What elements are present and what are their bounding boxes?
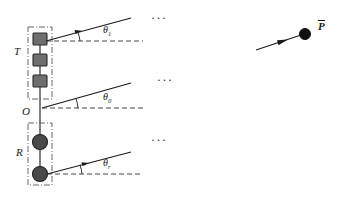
origin-label: O xyxy=(22,106,30,117)
figure-canvas: T R O θ1 θ0 θr P ··· ··· ··· xyxy=(0,0,340,203)
figure-vector-layer xyxy=(0,0,340,203)
tx-element-3 xyxy=(33,75,47,87)
tx-element-1 xyxy=(33,33,47,45)
angle-subscript-theta-1: 1 xyxy=(108,30,111,37)
angle-label-theta-1: θ1 xyxy=(103,25,111,38)
angle-subscript-theta-0: 0 xyxy=(108,97,111,104)
ray-line-upper xyxy=(46,18,131,41)
angle-arc-upper xyxy=(78,33,80,42)
angle-arc-lower xyxy=(80,165,82,174)
transmit-array-label: T xyxy=(14,46,20,57)
receive-array-label: R xyxy=(16,147,23,158)
ellipsis-lower: ··· xyxy=(151,134,168,146)
angle-arc-middle xyxy=(76,99,78,109)
target-point-marker xyxy=(300,29,311,40)
ellipsis-upper: ··· xyxy=(151,12,168,24)
ray-line-middle xyxy=(42,83,131,108)
rx-element-1 xyxy=(33,135,48,150)
tx-element-2 xyxy=(33,54,47,66)
ellipsis-middle: ··· xyxy=(157,74,174,86)
target-point-symbol: P xyxy=(318,20,325,33)
rx-element-2 xyxy=(33,167,48,182)
angle-subscript-theta-r: r xyxy=(108,163,111,170)
target-ray-arrowhead xyxy=(277,40,288,46)
angle-label-theta-r: θr xyxy=(103,158,110,171)
target-point-label: P xyxy=(318,20,325,33)
angle-label-theta-0: θ0 xyxy=(103,92,111,105)
ray-arrowhead-lower xyxy=(82,162,90,166)
